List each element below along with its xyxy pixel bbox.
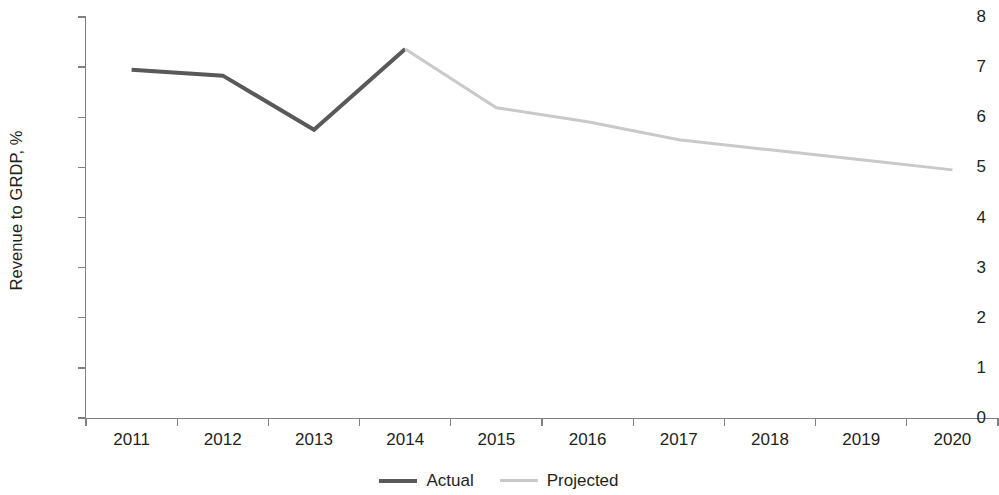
x-axis-tick-label: 2020 xyxy=(907,430,998,450)
y-axis-tick-label: 3 xyxy=(926,258,998,278)
x-axis-tick-mark xyxy=(724,418,725,426)
y-axis-tick-label: 4 xyxy=(926,208,998,228)
y-axis-tick-label: 2 xyxy=(926,308,998,328)
y-axis-tick-label: 5 xyxy=(926,157,998,177)
x-axis-tick-mark xyxy=(541,418,542,426)
x-axis-tick-label: 2012 xyxy=(177,430,268,450)
y-axis-tick-mark xyxy=(78,167,86,168)
chart-legend: ActualProjected xyxy=(0,466,998,495)
x-axis-tick-label: 2017 xyxy=(633,430,724,450)
series-line-actual xyxy=(132,49,406,130)
x-axis-tick-label: 2011 xyxy=(86,430,177,450)
x-axis-tick-label: 2018 xyxy=(724,430,815,450)
y-axis-tick-mark xyxy=(78,317,86,318)
legend-item-label: Projected xyxy=(547,472,619,489)
legend-item-actual[interactable]: Actual xyxy=(379,472,473,489)
y-axis-title: Revenue to GRDP, % xyxy=(0,0,32,420)
legend-swatch-icon xyxy=(379,479,417,483)
x-axis-tick-mark xyxy=(85,418,86,426)
x-axis-tick-label: 2014 xyxy=(360,430,451,450)
y-axis-tick-label: 0 xyxy=(926,408,998,428)
x-axis-tick-mark xyxy=(450,418,451,426)
x-axis-tick-mark xyxy=(997,418,998,426)
legend-item-projected[interactable]: Projected xyxy=(500,472,619,489)
y-axis-tick-label: 1 xyxy=(926,358,998,378)
y-axis-tick-mark xyxy=(78,217,86,218)
x-axis-tick-label: 2019 xyxy=(816,430,907,450)
x-axis-tick-mark xyxy=(633,418,634,426)
legend-swatch-icon xyxy=(500,479,538,482)
x-axis-tick-label: 2015 xyxy=(451,430,542,450)
x-axis-tick-mark xyxy=(359,418,360,426)
legend-item-label: Actual xyxy=(426,472,473,489)
x-axis-tick-mark xyxy=(268,418,269,426)
y-axis-tick-mark xyxy=(78,66,86,67)
series-line-projected xyxy=(405,49,952,170)
x-axis-tick-mark xyxy=(177,418,178,426)
y-axis-tick-mark xyxy=(78,367,86,368)
x-axis-tick-mark xyxy=(906,418,907,426)
x-axis-tick-mark xyxy=(815,418,816,426)
y-axis-tick-mark xyxy=(78,117,86,118)
y-axis-title-label: Revenue to GRDP, % xyxy=(7,130,26,290)
y-axis-tick-label: 8 xyxy=(926,7,998,27)
y-axis-tick-label: 7 xyxy=(926,57,998,77)
x-axis-tick-label: 2016 xyxy=(542,430,633,450)
y-axis-tick-mark xyxy=(78,16,86,17)
x-axis-tick-label: 2013 xyxy=(268,430,359,450)
y-axis-tick-mark xyxy=(78,267,86,268)
y-axis-tick-label: 6 xyxy=(926,107,998,127)
